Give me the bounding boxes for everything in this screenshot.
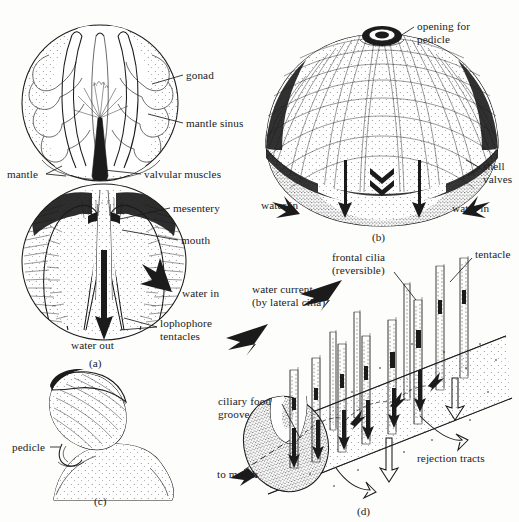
- label-mantle: mantle: [7, 168, 38, 181]
- panel-caption-d: (d): [357, 505, 370, 517]
- label-water-in-panel-a: water in: [182, 287, 219, 300]
- label-rejection-tracts: rejection tracts: [417, 452, 485, 465]
- label-mantle-sinus: mantle sinus: [186, 117, 243, 130]
- panel-caption-a: (a): [89, 357, 101, 369]
- label-water-in-left-panel-b: water in: [261, 199, 298, 212]
- label-mesentery: mesentery: [173, 202, 220, 215]
- label-frontal-cilia: frontal cilia (reversible): [332, 251, 385, 278]
- panel-c-pedicle-attachment: [50, 369, 174, 500]
- label-tentacle: tentacle: [475, 248, 511, 261]
- label-water-current: water current (by lateral cilia): [252, 283, 325, 310]
- panel-b-shell: [266, 26, 498, 226]
- label-opening-for-pedicle: opening for pedicle: [417, 20, 470, 47]
- label-mouth: mouth: [181, 234, 210, 247]
- figure-artwork: [0, 0, 519, 522]
- label-gonad: gonad: [186, 69, 214, 82]
- panel-caption-c: (c): [94, 495, 106, 507]
- label-shell-valves: shell valves: [483, 160, 512, 187]
- label-valvular-muscles: valvular muscles: [144, 168, 221, 181]
- label-pedicle: pedicle: [12, 441, 45, 454]
- label-water-in-right-panel-b: water in: [452, 202, 489, 215]
- figure-brachiopod-anatomy: gonad mantle sinus mantle valvular muscl…: [0, 0, 519, 522]
- label-water-out: water out: [71, 339, 114, 352]
- label-to-mouth: to mouth: [217, 468, 258, 481]
- panel-caption-b: (b): [372, 231, 385, 243]
- label-ciliary-food-groove: ciliary food groove: [218, 395, 271, 422]
- label-lophophore-tentacles: lophophore tentacles: [160, 317, 212, 344]
